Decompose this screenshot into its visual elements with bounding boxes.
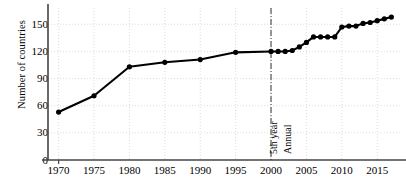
data-line (59, 17, 392, 112)
axis-lines (42, 4, 406, 164)
left-period-label: 5th year (268, 122, 279, 155)
data-markers (56, 14, 394, 114)
right-period-label: Annual (282, 125, 293, 154)
chart-figure: Number of countries 0306090120150 197019… (0, 0, 406, 186)
gridlines (48, 8, 402, 160)
plot-area (0, 0, 406, 186)
